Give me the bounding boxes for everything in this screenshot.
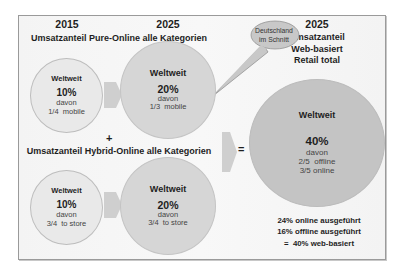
hybrid-online-heading: Umsatzanteil Hybrid-Online alle Kategori…: [24, 146, 214, 156]
circle-detail: 3/4 to store: [47, 220, 87, 229]
circle-davon: davon: [306, 148, 328, 157]
hybrid-online-2025-circle: Weltweit 20% davon 3/4 to store: [120, 157, 216, 255]
circle-label: Weltweit: [299, 110, 335, 120]
circle-percentage: 20%: [157, 199, 178, 211]
circle-percentage: 20%: [157, 83, 178, 95]
web-based-total-circle: Weltweit 40% davon 2/5 offline 3/5 onlin…: [249, 79, 385, 207]
year-2025-label: 2025: [143, 18, 193, 30]
circle-detail: 1/3 mobile: [150, 103, 187, 112]
callout-line-2: im Schnitt: [252, 36, 296, 45]
circle-detail: 3/4 to store: [148, 219, 188, 228]
circle-label: Weltweit: [150, 68, 186, 78]
circle-label: Weltweit: [51, 75, 81, 84]
circle-detail: 1/4 mobile: [48, 108, 85, 117]
circle-label: Weltweit: [150, 184, 186, 194]
circle-label: Weltweit: [51, 187, 81, 196]
plus-sign: +: [106, 132, 112, 144]
germany-average-callout: Deutschland im Schnitt: [252, 27, 296, 45]
year-2015-label: 2015: [42, 18, 92, 30]
circle-detail-offline: 2/5 offline: [299, 157, 336, 166]
equals-sign: =: [238, 143, 244, 155]
pure-online-2025-circle: Weltweit 20% davon 1/3 mobile: [120, 41, 216, 139]
pure-online-2015-circle: Weltweit 10% davon 1/4 mobile: [30, 58, 103, 133]
summary-text: 24% online ausgeführt 16% offline ausgef…: [264, 215, 374, 249]
summary-line-total: = 40% web-basiert: [264, 238, 374, 249]
circle-percentage: 40%: [305, 135, 328, 148]
hybrid-online-2015-circle: Weltweit 10% davon 3/4 to store: [30, 170, 103, 245]
callout-line-1: Deutschland: [252, 27, 296, 36]
circle-detail-online: 3/5 online: [300, 166, 335, 175]
pure-online-heading: Umsatzanteil Pure-Online alle Kategorien: [24, 33, 214, 43]
summary-line-online: 24% online ausgeführt: [264, 215, 374, 226]
summary-line-offline: 16% offline ausgeführt: [264, 226, 374, 237]
chevron-right-large-icon: [222, 132, 237, 172]
